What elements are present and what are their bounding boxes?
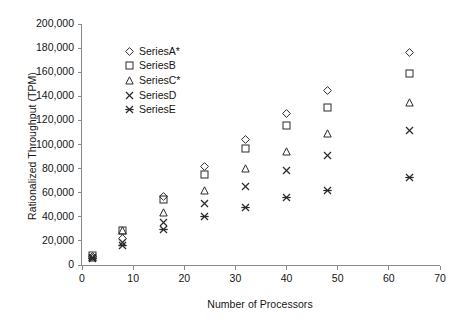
y-tick-label: 160,000 [36,65,74,77]
y-tick-label: 80,000 [42,162,74,174]
x-tick-label: 0 [79,272,85,284]
data-point [118,241,127,250]
y-tick-label: 140,000 [36,89,74,101]
data-point [405,173,414,182]
data-point [282,121,291,130]
y-tick-label: 0 [68,258,74,270]
data-point [159,195,168,204]
data-point [200,186,209,195]
x-tick-mark [184,266,185,270]
y-tick-mark [78,96,82,97]
y-tick-mark [78,144,82,145]
y-tick-label: 40,000 [42,210,74,222]
data-point [241,182,250,191]
y-tick-label: 20,000 [42,234,74,246]
x-tick-label: 40 [281,272,293,284]
data-point [241,203,250,212]
y-tick-label: 200,000 [36,17,74,29]
x-tick-mark [388,266,389,270]
y-tick-mark [78,168,82,169]
legend-item-seriesa: SeriesA* [124,44,180,59]
x-tick-mark [440,266,441,270]
data-point [323,129,332,138]
data-point [405,69,414,78]
x-tick-mark [286,266,287,270]
y-tick-label: 100,000 [36,138,74,150]
data-point [241,144,250,153]
y-tick-mark [78,216,82,217]
x-tick-mark [235,266,236,270]
cross-marker-icon [124,90,135,101]
x-tick-label: 10 [127,272,139,284]
y-tick-mark [78,240,82,241]
asterisk-marker-icon [124,104,135,115]
y-tick-label: 60,000 [42,186,74,198]
triangle-marker-icon [124,75,135,86]
data-point [405,126,414,135]
data-point [282,193,291,202]
x-tick-mark [133,266,134,270]
x-tick-label: 70 [434,272,446,284]
square-marker-icon [124,60,135,71]
data-point [241,164,250,173]
data-point [118,226,127,235]
data-point [323,151,332,160]
y-tick-label: 180,000 [36,41,74,53]
x-tick-label: 20 [178,272,190,284]
y-tick-mark [78,120,82,121]
y-tick-mark [78,24,82,25]
x-tick-label: 60 [383,272,395,284]
data-point [88,254,97,263]
x-tick-mark [337,266,338,270]
data-point [282,166,291,175]
data-point [159,208,168,217]
data-point [200,199,209,208]
y-tick-mark [78,48,82,49]
legend-item-seriese: SeriesE [124,102,180,117]
y-tick-mark [78,72,82,73]
x-tick-mark [82,266,83,270]
data-point [323,186,332,195]
legend-label: SeriesA* [139,46,180,57]
x-tick-label: 50 [332,272,344,284]
data-point [405,48,414,57]
y-tick-mark [78,192,82,193]
data-point [200,212,209,221]
x-axis-title: Number of Processors [81,298,439,310]
y-tick-label: 120,000 [36,113,74,125]
data-point [323,86,332,95]
data-point [405,98,414,107]
data-point [159,225,168,234]
chart-legend: SeriesA*SeriesBSeriesC*SeriesDSeriesE [124,44,180,117]
scatter-chart: Rationalized Throughput (TPM) Number of … [0,0,459,323]
legend-label: SeriesC* [139,75,180,86]
x-tick-label: 30 [230,272,242,284]
legend-item-seriesd: SeriesD [124,88,180,103]
data-point [282,147,291,156]
legend-item-seriesb: SeriesB [124,59,180,74]
diamond-marker-icon [124,46,135,57]
data-point [323,103,332,112]
data-point [200,170,209,179]
data-point [241,135,250,144]
legend-label: SeriesB [139,60,176,71]
legend-item-seriesc: SeriesC* [124,73,180,88]
legend-label: SeriesE [139,104,176,115]
data-point [282,109,291,118]
legend-label: SeriesD [139,90,176,101]
